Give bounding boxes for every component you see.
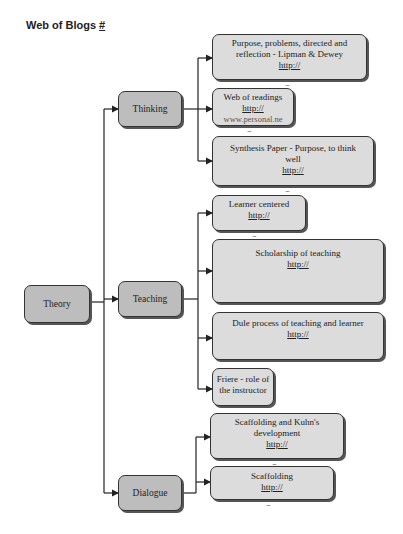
more-marker[interactable]: ...	[252, 230, 256, 239]
node-theory[interactable]: Theory	[24, 285, 90, 323]
leaf-friere-role[interactable]: Friere - role of the instructor	[212, 368, 274, 406]
node-label: Theory	[43, 299, 70, 309]
leaf-link[interactable]: http://	[211, 482, 333, 493]
leaf-text: Web of readings	[224, 92, 283, 102]
leaf-link[interactable]: http://	[223, 60, 356, 71]
leaf-text: Synthesis Paper - Purpose, to think well	[230, 143, 356, 164]
leaf-text: Scaffolding and Kuhn's development	[235, 417, 319, 438]
leaf-purpose-problems[interactable]: Purpose, problems, directed and reflecti…	[212, 34, 367, 80]
node-label: Dialogue	[133, 488, 168, 498]
node-teaching[interactable]: Teaching	[118, 281, 182, 317]
leaf-link[interactable]: http://	[213, 259, 383, 270]
leaf-dule-process[interactable]: Dule process of teaching and learner htt…	[212, 312, 384, 360]
leaf-scholarship-of-teaching[interactable]: Scholarship of teaching http://	[212, 239, 384, 303]
more-marker[interactable]: ...	[247, 125, 251, 134]
node-dialogue[interactable]: Dialogue	[118, 475, 182, 511]
leaf-synthesis-paper[interactable]: Synthesis Paper - Purpose, to think well…	[212, 136, 374, 186]
leaf-link[interactable]: http://	[213, 210, 305, 221]
leaf-web-of-readings[interactable]: Web of readings http:// www.personal.ne	[212, 88, 294, 126]
leaf-scaffolding-kuhn[interactable]: Scaffolding and Kuhn's development http:…	[210, 413, 344, 459]
node-label: Teaching	[133, 294, 168, 304]
node-label: Thinking	[133, 104, 168, 114]
leaf-text: Friere - role of the instructor	[217, 374, 270, 395]
leaf-learner-centered[interactable]: Learner centered http://	[212, 195, 306, 231]
leaf-link[interactable]: http://	[227, 165, 359, 176]
leaf-link[interactable]: http://	[213, 329, 383, 340]
more-marker[interactable]: ...	[285, 185, 289, 194]
leaf-text: Purpose, problems, directed and reflecti…	[232, 38, 348, 59]
leaf-text: Dule process of teaching and learner	[232, 318, 364, 328]
leaf-clipped-url: www.personal.ne	[213, 114, 293, 125]
leaf-link[interactable]: http://	[225, 439, 329, 450]
leaf-scaffolding[interactable]: Scaffolding http://	[210, 466, 334, 500]
node-thinking[interactable]: Thinking	[118, 91, 182, 127]
leaf-text: Scaffolding	[251, 471, 293, 481]
leaf-text: Scholarship of teaching	[256, 248, 341, 258]
more-marker[interactable]: ...	[266, 499, 270, 508]
leaf-text: Learner centered	[229, 199, 290, 209]
more-marker[interactable]: ...	[285, 79, 289, 88]
leaf-link[interactable]: http://	[213, 103, 293, 114]
